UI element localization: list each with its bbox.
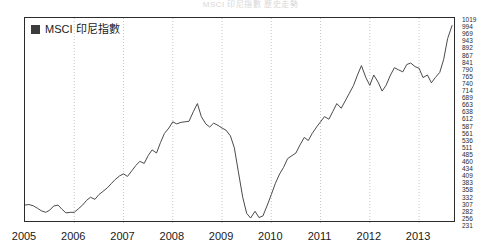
gridlines-group: [74, 18, 419, 223]
x-tick-label: 2008: [160, 230, 184, 243]
y-tick-label: 612: [462, 116, 473, 123]
y-axis-labels: 1019994969943892867841790765740714689663…: [462, 15, 501, 225]
x-tick-label: 2009: [209, 230, 233, 243]
legend-label: MSCI 印尼指數: [45, 23, 120, 35]
chart-title: MSCI 印尼指數 歷史走勢: [0, 0, 501, 9]
series-line-msci-indonesia: [25, 26, 452, 219]
legend-square-marker-icon: [31, 25, 40, 34]
x-axis-labels: 200520062007200820092010201120122013: [0, 230, 501, 248]
chart-container: MSCI 印尼指數 歷史走勢 MSCI 印尼指數 101999496994389…: [0, 0, 501, 252]
x-tick-label: 2010: [258, 230, 282, 243]
y-tick-label: 231: [462, 223, 473, 230]
x-tick-label: 2005: [12, 230, 36, 243]
x-tick-label: 2013: [406, 230, 430, 243]
plot-area: [24, 17, 455, 222]
x-tick-label: 2006: [61, 230, 85, 243]
legend: MSCI 印尼指數: [31, 22, 120, 36]
y-tick-label: 892: [462, 45, 473, 52]
line-chart-svg: [25, 18, 456, 223]
x-tick-label: 2011: [308, 230, 332, 243]
x-tick-label: 2007: [110, 230, 134, 243]
x-tick-label: 2012: [357, 230, 381, 243]
y-tick-label: 358: [462, 187, 473, 194]
